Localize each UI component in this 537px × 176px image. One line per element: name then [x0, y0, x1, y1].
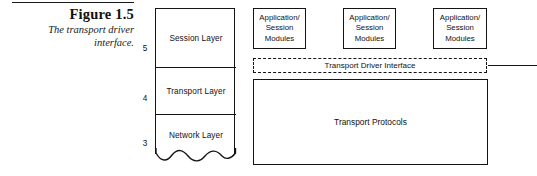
- torn-paper-edge-icon: [155, 148, 237, 168]
- app-session-module-line-3: Modules: [355, 34, 384, 44]
- layer-number-3: 3: [139, 139, 151, 148]
- app-session-module-line-1: Application/: [259, 13, 299, 23]
- app-session-module-line-3: Modules: [265, 34, 294, 44]
- app-session-module-line-2: Session: [266, 23, 294, 33]
- caption-rule-divider: [12, 2, 134, 3]
- figure-number-label: Figure 1.5: [12, 6, 134, 22]
- layer-number-4: 4: [139, 94, 151, 103]
- transport-driver-interface-box: Transport Driver Interface: [253, 58, 487, 73]
- figure-caption-line-2: interface.: [94, 37, 134, 48]
- app-session-module-line-2: Session: [356, 23, 384, 33]
- figure-caption-block: Figure 1.5 The transport driver interfac…: [12, 2, 134, 49]
- transport-protocols-box: Transport Protocols: [253, 79, 488, 165]
- app-session-module-line-1: Application/: [440, 13, 480, 23]
- osi-layer-stack: Session Layer Transport Layer Network La…: [155, 8, 235, 154]
- app-session-module-line-2: Session: [446, 23, 474, 33]
- layer-cell-transport: Transport Layer: [156, 67, 236, 114]
- figure-caption-text: The transport driver interface.: [12, 24, 134, 49]
- app-session-module-line-3: Modules: [445, 34, 474, 44]
- transport-driver-interface-leader-line: [488, 65, 537, 66]
- figure-caption-line-1: The transport driver: [48, 24, 134, 35]
- layer-stack-outline: Session Layer Transport Layer Network La…: [155, 8, 235, 154]
- app-session-module-box-2: Application/ Session Modules: [343, 8, 396, 49]
- app-session-module-line-1: Application/: [349, 13, 389, 23]
- app-session-module-box-1: Application/ Session Modules: [253, 8, 306, 49]
- app-session-module-box-3: Application/ Session Modules: [433, 8, 487, 49]
- layer-number-5: 5: [139, 44, 151, 53]
- layer-cell-session: Session Layer: [156, 9, 236, 67]
